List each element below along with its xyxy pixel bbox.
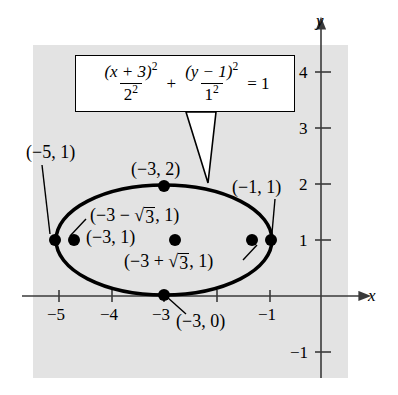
- eq-num-left: (x + 3): [104, 62, 151, 81]
- label-top-covertex: (−3, 2): [131, 160, 180, 178]
- right-focus-prefix: (−3 +: [124, 251, 164, 271]
- label-center: (−3, 1): [86, 228, 135, 246]
- left-focus-radical: √3: [134, 206, 155, 226]
- leader-left-focus: [70, 219, 86, 236]
- plot-points: [49, 180, 277, 301]
- y-tick-label-4: 4: [299, 64, 308, 81]
- figure-canvas: (x + 3)2 22 + (y − 1)2 12 = 1 x y −5 −4 …: [0, 0, 398, 395]
- radical-sign-icon: √: [134, 206, 144, 224]
- point-left-focus: [68, 234, 80, 246]
- eq-num-right: (y − 1): [185, 62, 232, 81]
- y-tick-label-2: 2: [299, 176, 308, 193]
- eq-num-left-exp: 2: [152, 60, 158, 73]
- leader-right-vertex: [272, 199, 275, 233]
- point-right-focus: [246, 234, 258, 246]
- equation-callout-box: (x + 3)2 22 + (y − 1)2 12 = 1: [75, 55, 295, 112]
- point-left-vertex: [49, 234, 61, 246]
- eq-den-right-exp: 2: [213, 83, 219, 96]
- label-bottom-covertex: (−3, 0): [176, 312, 225, 330]
- point-top-covertex: [158, 180, 170, 192]
- left-focus-suffix: , 1): [155, 205, 179, 225]
- left-focus-prefix: (−3 −: [90, 205, 130, 225]
- x-axis-label: x: [368, 287, 376, 304]
- y-tick-label--1: −1: [290, 344, 308, 361]
- eq-equals-one: = 1: [247, 74, 269, 94]
- label-right-vertex: (−1, 1): [232, 178, 281, 196]
- y-tick-label-3: 3: [299, 120, 308, 137]
- label-left-vertex: (−5, 1): [26, 143, 75, 161]
- y-axis-label: y: [316, 12, 324, 29]
- ellipse-equation: (x + 3)2 22 + (y − 1)2 12 = 1: [100, 62, 269, 105]
- x-tick-label--1: −1: [258, 306, 276, 323]
- eq-num-right-exp: 2: [232, 60, 238, 73]
- x-tick-label--4: −4: [100, 306, 118, 323]
- point-center: [169, 234, 181, 246]
- leader-right-focus: [243, 245, 257, 260]
- eq-den-left-exp: 2: [132, 83, 138, 96]
- right-focus-radicand: 3: [178, 253, 189, 272]
- leader-left-vertex: [42, 165, 50, 234]
- fraction-right: (y − 1)2 12: [181, 62, 242, 105]
- point-right-vertex: [265, 234, 277, 246]
- radical-sign-icon: √: [168, 252, 178, 270]
- y-tick-label-1: 1: [299, 232, 308, 249]
- y-tick-marks: [315, 72, 331, 352]
- eq-den-right: 1: [205, 85, 214, 104]
- label-left-focus: (−3 − √3, 1): [90, 206, 179, 226]
- x-tick-label--3: −3: [152, 306, 170, 323]
- point-bottom-covertex: [158, 289, 170, 301]
- x-tick-label--5: −5: [47, 306, 65, 323]
- eq-plus-sign: +: [167, 74, 177, 94]
- callout-tail: [186, 112, 216, 183]
- right-focus-radical: √3: [168, 252, 189, 272]
- label-right-focus: (−3 + √3, 1): [124, 252, 213, 272]
- left-focus-radicand: 3: [144, 207, 155, 226]
- right-focus-suffix: , 1): [189, 251, 213, 271]
- fraction-left: (x + 3)2 22: [100, 62, 161, 105]
